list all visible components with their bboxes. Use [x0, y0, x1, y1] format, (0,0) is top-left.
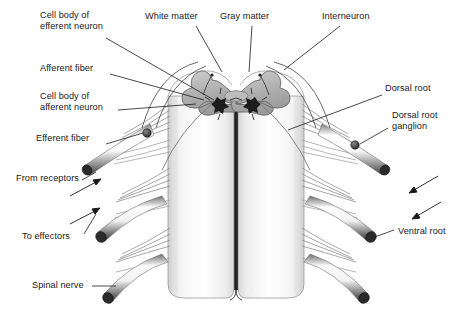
ganglion-marker-right — [351, 141, 359, 149]
figure-canvas: Cell body of efferent neuron White matte… — [0, 0, 472, 314]
label-spinal-nerve: Spinal nerve — [32, 280, 84, 291]
nerve-right-2 — [305, 196, 374, 241]
nerve-right-3 — [304, 254, 368, 302]
nerve-left-2 — [98, 196, 167, 241]
label-interneuron: Interneuron — [322, 11, 370, 22]
label-gray-matter: Gray matter — [220, 11, 269, 22]
label-from-receptors: From receptors — [16, 173, 79, 184]
nerve-left-3 — [104, 254, 168, 302]
arrow-afferent-in — [409, 176, 438, 193]
label-dorsal-root-ganglion: Dorsal root ganglion — [392, 110, 437, 132]
leader-white-matter — [196, 26, 222, 72]
label-ventral-root: Ventral root — [398, 226, 446, 237]
label-afferent-fiber: Afferent fiber — [40, 63, 93, 74]
leader-cell-body-efferent — [106, 38, 214, 100]
leader-gray-matter — [249, 26, 252, 72]
label-white-matter: White matter — [145, 11, 198, 22]
ganglion-marker-left — [143, 129, 151, 137]
label-to-effectors: To effectors — [22, 231, 70, 242]
label-efferent-fiber: Efferent fiber — [36, 133, 89, 144]
nerve-right-1 — [318, 124, 388, 175]
leader-dorsal-root-ganglion — [360, 128, 388, 144]
label-cell-body-afferent: Cell body of afferent neuron — [40, 91, 103, 113]
arrow-to-effectors — [70, 208, 100, 224]
arrow-efferent-out — [412, 202, 441, 219]
leader-interneuron — [284, 26, 340, 70]
label-cell-body-efferent: Cell body of efferent neuron — [40, 10, 103, 32]
spinal-cord-illustration — [0, 0, 472, 314]
label-dorsal-root: Dorsal root — [385, 83, 430, 94]
leader-to-effectors — [84, 214, 96, 234]
